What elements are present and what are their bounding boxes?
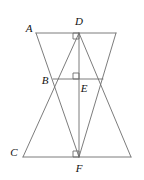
vertex-label-e: E [81, 83, 88, 94]
geometry-figure: ADBECF [0, 0, 144, 180]
vertex-label-b: B [42, 75, 49, 86]
segments-group [23, 33, 131, 157]
segment-A-F-left-side-upper-triangle [36, 33, 79, 157]
segment-C-D-left-side-lower-triangle [23, 33, 79, 157]
right-angle-marks-group [73, 33, 79, 157]
right-angle-mark-at-E [73, 73, 79, 79]
vertex-label-c: C [10, 147, 17, 158]
segment-BR-D-right-side-lower-triangle [79, 33, 131, 157]
vertex-label-a: A [26, 23, 33, 34]
vertex-label-d: D [75, 16, 83, 27]
geometry-canvas [0, 0, 144, 180]
vertex-label-f: F [76, 163, 83, 174]
segment-TR-F-right-side-upper-triangle [79, 33, 116, 157]
